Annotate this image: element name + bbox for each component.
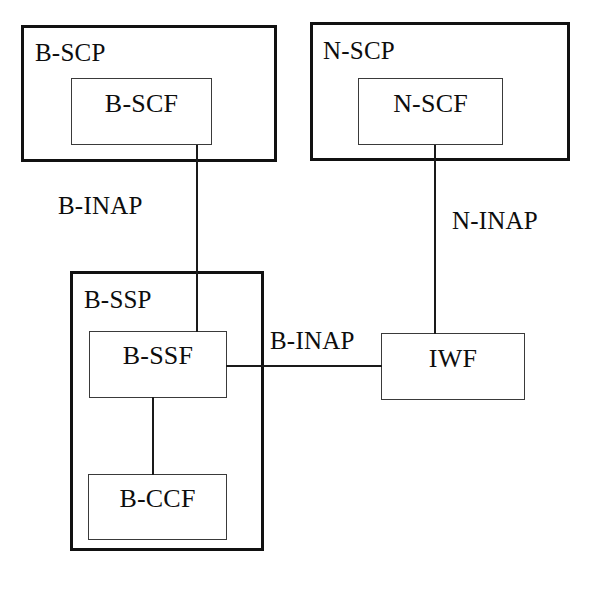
node-n-scf: N-SCF [358, 78, 503, 145]
node-b-ssf-label: B-SSF [90, 343, 226, 369]
connector-b-ssf-to-b-ccf [152, 397, 154, 475]
node-b-scf: B-SCF [71, 78, 212, 145]
node-iwf-label: IWF [382, 346, 524, 372]
connector-label-b-inap-scf-ssf: B-INAP [58, 193, 143, 218]
node-b-scp-label: B-SCP [35, 40, 105, 65]
node-b-ccf-label: B-CCF [89, 486, 226, 512]
node-b-ssp-label: B-SSP [84, 287, 152, 312]
connector-label-b-inap-ssf-iwf: B-INAP [270, 328, 355, 353]
connector-b-ssf-to-iwf [226, 365, 382, 367]
node-n-scp-label: N-SCP [323, 38, 395, 63]
connector-n-scf-to-iwf [434, 145, 436, 334]
connector-b-scf-to-b-ssf [196, 145, 198, 332]
node-n-scf-label: N-SCF [359, 91, 502, 117]
node-iwf: IWF [381, 333, 525, 400]
connector-label-n-inap-scf-iwf: N-INAP [452, 208, 538, 233]
node-b-scf-label: B-SCF [72, 91, 211, 117]
node-b-ccf: B-CCF [88, 474, 227, 540]
node-b-ssf: B-SSF [89, 331, 227, 398]
diagram-canvas: B-SCP B-SCF N-SCP N-SCF B-SSP B-SSF B-CC… [0, 0, 593, 593]
